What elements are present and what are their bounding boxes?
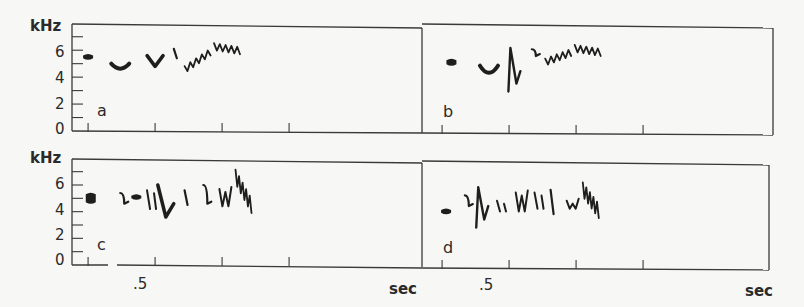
x-unit-label-right: sec <box>745 282 773 300</box>
note-c-1 <box>86 193 96 204</box>
note-c-2 <box>120 193 128 204</box>
y-tick-label-6-bottom: 6 <box>55 175 65 193</box>
panel-d: d <box>422 161 769 270</box>
panel-bottom-border <box>422 268 769 270</box>
note-a-4 <box>174 49 177 58</box>
note-c-9 <box>236 170 252 213</box>
panel-top-border <box>72 159 422 163</box>
note-d-8 <box>567 199 579 209</box>
sonagram-figure: kHz 6 4 2 0 kHz 6 4 2 0 .5 .5 sec sec ab… <box>0 0 804 307</box>
panel-bottom-border <box>422 133 773 135</box>
y-tick-label-4-bottom: 4 <box>55 201 65 219</box>
panel-label-c: c <box>97 235 106 254</box>
panel-top-border <box>72 24 422 28</box>
y-tick-label-2-top: 2 <box>55 95 65 113</box>
panel-label-b: b <box>443 102 453 121</box>
panel-c: c <box>72 159 422 268</box>
note-a-6 <box>214 43 240 54</box>
x-tick-label-right: .5 <box>479 276 493 294</box>
x-unit-label-left: sec <box>389 280 417 298</box>
note-d-7 <box>551 190 554 214</box>
panel-label-a: a <box>97 101 107 120</box>
note-a-1 <box>83 54 93 60</box>
note-c-3 <box>131 194 141 200</box>
y-tick-label-4-top: 4 <box>55 69 65 87</box>
note-d-2 <box>465 195 473 206</box>
panel-a: a <box>72 24 422 133</box>
y-unit-label-top: kHz <box>30 17 62 35</box>
panel-b: b <box>422 24 773 135</box>
panel-top-border <box>422 24 773 28</box>
note-d-6 <box>535 193 544 209</box>
note-c-5 <box>158 185 174 217</box>
x-tick-label-left: .5 <box>133 275 147 293</box>
y-tick-label-0-bottom: 0 <box>55 251 65 269</box>
panel-bottom-border <box>117 265 422 268</box>
panel-label-d: d <box>443 238 453 257</box>
bottom-y-axis: kHz 6 4 2 0 <box>30 149 65 269</box>
y-unit-label-bottom: kHz <box>30 149 62 167</box>
note-b-4 <box>532 49 540 56</box>
note-b-3 <box>508 48 520 92</box>
note-a-2 <box>111 64 129 69</box>
note-d-9 <box>583 183 599 219</box>
y-tick-label-6-top: 6 <box>55 43 65 61</box>
note-b-5 <box>545 50 571 65</box>
note-d-1 <box>441 209 451 215</box>
note-d-4 <box>497 201 506 212</box>
note-b-1 <box>446 59 456 66</box>
note-a-5 <box>185 51 211 72</box>
panel-bottom-border <box>72 131 422 133</box>
top-y-axis: kHz 6 4 2 0 <box>30 17 65 138</box>
y-tick-label-0-top: 0 <box>55 120 65 138</box>
note-c-6 <box>185 190 188 205</box>
note-b-6 <box>575 45 601 56</box>
note-a-3 <box>147 56 163 67</box>
note-d-5 <box>516 191 528 212</box>
note-c-4 <box>147 190 156 209</box>
note-c-7 <box>203 185 211 204</box>
y-tick-label-2-bottom: 2 <box>55 226 65 244</box>
note-c-8 <box>219 187 231 206</box>
note-b-2 <box>480 66 498 73</box>
panel-top-border <box>422 161 769 165</box>
note-d-3 <box>476 187 488 227</box>
